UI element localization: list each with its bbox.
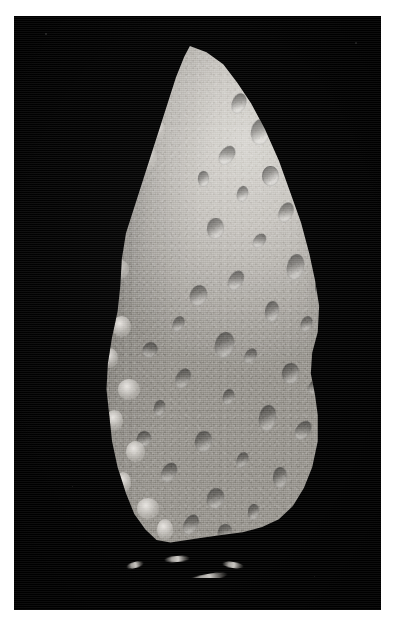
terminator-knob — [106, 410, 123, 431]
terminator-knob — [123, 171, 140, 192]
image-caption: Grayscale spacecraft photograph of an ir… — [0, 16, 1, 17]
crater — [254, 533, 270, 552]
terminator-knob — [148, 119, 165, 140]
terminator-knob — [115, 197, 134, 218]
crater — [290, 133, 307, 152]
terminator-knob — [106, 259, 128, 280]
terminator-knob — [118, 379, 140, 400]
terminator-knob — [93, 280, 110, 301]
sky-speck — [355, 42, 357, 44]
asteroid-silhouette — [62, 46, 340, 566]
asteroid-body — [62, 46, 340, 566]
terminator-knob — [157, 519, 174, 540]
terminator-knob — [145, 77, 159, 93]
terminator-knob — [134, 145, 156, 171]
terminator-knob-layer — [62, 46, 340, 566]
crater — [305, 180, 320, 198]
terminator-knob — [76, 327, 87, 343]
terminator-knob — [101, 348, 118, 369]
terminator-knob — [81, 301, 95, 317]
terminator-knob — [137, 498, 159, 519]
terminator-knob — [112, 316, 131, 337]
terminator-knob — [87, 238, 106, 259]
terminator-knob — [126, 441, 145, 462]
terminator-knob — [115, 472, 132, 493]
terminator-knob — [129, 98, 143, 114]
image-canvas: Grayscale spacecraft photograph of an ir… — [0, 0, 394, 632]
photo-frame — [14, 16, 381, 610]
crater — [267, 107, 285, 126]
terminator-knob — [98, 218, 123, 244]
